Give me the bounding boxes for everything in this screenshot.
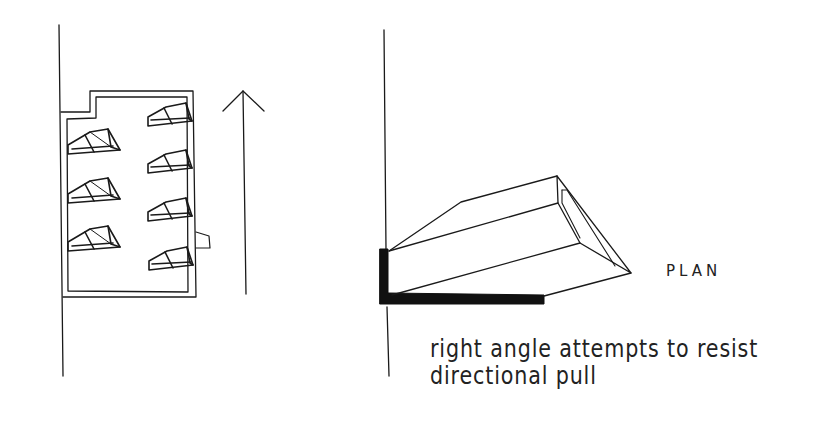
caption-line-1: right angle attempts to resist: [430, 336, 758, 363]
door-protrusion: [196, 232, 210, 248]
fixture-left-3: [68, 226, 120, 251]
arrow-up-icon: [223, 91, 264, 294]
fixture-right-1: [148, 103, 192, 126]
right-wall-line: [384, 30, 386, 250]
right-wall-line-lower: [387, 307, 389, 376]
room-outer-outline: [61, 91, 196, 297]
plan-label: PLAN: [666, 262, 721, 280]
fixture-right-3: [148, 198, 192, 221]
caption-line-2: directional pull: [430, 363, 758, 390]
angled-box-fixture: [389, 176, 631, 296]
fixture-right-4: [149, 247, 193, 270]
left-plan: [59, 25, 264, 376]
l-shaped-wall: [380, 249, 544, 304]
fixture-right-2: [148, 150, 192, 173]
left-wall-line: [59, 25, 63, 376]
fixture-left-1: [68, 129, 120, 154]
caption: right angle attempts to resist direction…: [430, 336, 758, 390]
right-plan: [380, 30, 631, 376]
fixture-left-2: [68, 178, 120, 203]
